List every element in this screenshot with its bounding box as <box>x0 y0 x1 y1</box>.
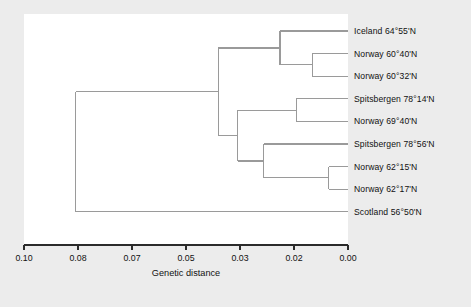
leaf-label: Scotland 56°50'N <box>354 207 422 217</box>
leaf-label: Norway 60°40'N <box>354 49 417 59</box>
x-tick-label: 0.02 <box>285 253 302 263</box>
x-axis-label: Genetic distance <box>152 268 220 278</box>
x-tick-label: 0.07 <box>123 253 140 263</box>
leaf-label: Norway 69°40'N <box>354 116 417 126</box>
leaf-label: Norway 62°15'N <box>354 162 417 172</box>
x-tick-label: 0.08 <box>69 253 86 263</box>
leaf-label: Norway 62°17'N <box>354 184 417 194</box>
x-tick-label: 0.00 <box>339 253 356 263</box>
leaf-label: Spitsbergen 78°56'N <box>354 139 435 149</box>
leaf-label: Norway 60°32'N <box>354 71 417 81</box>
dendrogram-figure: Iceland 64°55'NNorway 60°40'NNorway 60°3… <box>0 0 471 307</box>
x-tick-label: 0.05 <box>177 253 194 263</box>
leaf-label: Spitsbergen 78°14'N <box>354 94 435 104</box>
x-tick-label: 0.03 <box>231 253 248 263</box>
leaf-label: Iceland 64°55'N <box>354 26 416 36</box>
x-tick-label: 0.10 <box>15 253 32 263</box>
